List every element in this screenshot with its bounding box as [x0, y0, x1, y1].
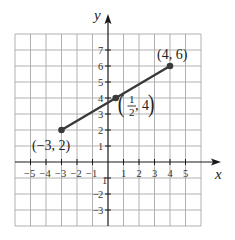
x-axis-label: x [214, 166, 222, 182]
x-tick-label: −4 [40, 168, 52, 179]
minus-sign: − [93, 189, 99, 200]
y-tick-label: 1 [102, 175, 107, 186]
point-label-start: (−3, 2) [32, 138, 71, 154]
y-axis-label: y [92, 7, 101, 23]
fraction-numerator: 1 [129, 93, 135, 105]
point-end [167, 63, 174, 70]
point-label-end: (4, 6) [157, 47, 188, 63]
x-tick-label: 5 [183, 168, 188, 179]
y-tick-label: 4 [98, 93, 104, 104]
x-tick-label: 3 [152, 168, 157, 179]
x-tick-label: 4 [168, 168, 174, 179]
y-tick-label: 5 [98, 77, 103, 88]
fraction-denominator: 2 [129, 106, 135, 118]
x-tick-label: 1 [121, 168, 126, 179]
point-label-rest: , 4 [135, 98, 149, 113]
x-tick-label: −1 [86, 168, 97, 179]
y-tick-label: 7 [98, 45, 103, 56]
minus-sign: − [93, 205, 99, 216]
y-tick-label: 3 [98, 109, 103, 120]
right-paren: ) [148, 89, 154, 117]
left-paren: ( [118, 89, 124, 117]
x-tick-label: −3 [55, 168, 66, 179]
x-tick-label: −5 [24, 168, 35, 179]
y-tick-label: 2 [98, 125, 103, 136]
y-tick-label: 1 [98, 141, 103, 152]
coordinate-plane: y x −5 −4 −3 −2 −1 1 2 3 4 5 7 6 5 4 3 2… [0, 0, 235, 240]
x-tick-label: 2 [137, 168, 142, 179]
y-tick-label: 6 [98, 61, 103, 72]
x-tick-label: −2 [71, 168, 82, 179]
point-start [58, 127, 65, 134]
